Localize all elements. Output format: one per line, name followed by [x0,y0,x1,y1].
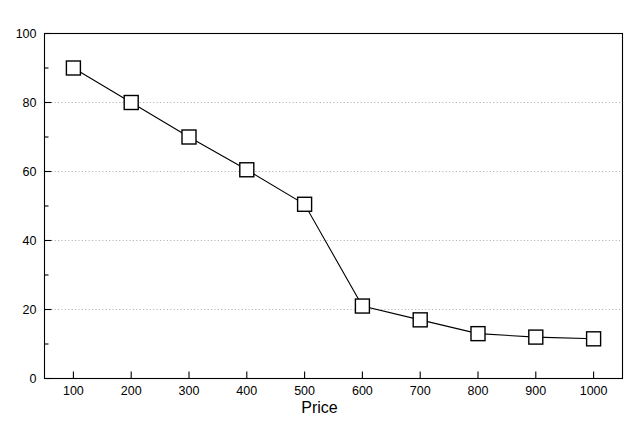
data-point-marker [355,299,369,313]
y-tick-label: 20 [3,304,37,317]
data-point-marker [182,130,196,144]
x-axis-title: Price [0,399,639,417]
data-point-marker [240,163,254,177]
data-point-marker [413,313,427,327]
x-tick-label: 700 [390,385,450,398]
data-point-marker [587,332,601,346]
axes-frame [45,34,623,379]
y-tick-label: 80 [3,97,37,110]
x-tick-label: 600 [332,385,392,398]
data-series-line [73,68,593,339]
tick-marks-group [45,34,594,379]
data-point-marker [471,327,485,341]
data-point-marker [298,197,312,211]
y-tick-label: 40 [3,235,37,248]
x-tick-label: 800 [448,385,508,398]
data-point-marker [529,330,543,344]
plot-canvas [0,0,639,431]
gridlines-group [45,103,623,310]
chart-figure: 020406080100 100200300400500600700800900… [0,0,639,431]
data-point-marker [66,61,80,75]
x-tick-label: 400 [217,385,277,398]
x-tick-label: 500 [275,385,335,398]
x-tick-label: 100 [43,385,103,398]
plot-border [45,34,623,379]
data-point-marker [124,96,138,110]
data-point-markers [66,61,600,346]
x-tick-label: 900 [506,385,566,398]
y-tick-label: 60 [3,166,37,179]
x-tick-label: 200 [101,385,161,398]
y-tick-label: 100 [3,28,37,41]
x-tick-label: 1000 [564,385,624,398]
y-tick-label: 0 [3,373,37,386]
x-tick-label: 300 [159,385,219,398]
